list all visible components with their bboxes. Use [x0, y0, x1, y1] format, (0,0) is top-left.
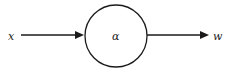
diagram-canvas: x α w [0, 0, 226, 73]
output-arrow [147, 31, 209, 39]
input-arrow [21, 31, 84, 39]
output-label: w [213, 30, 223, 43]
input-label: x [8, 30, 15, 43]
node-label: α [112, 30, 120, 43]
